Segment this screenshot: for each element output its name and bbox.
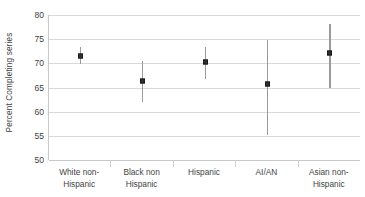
gridline-60 [49,112,360,113]
y-axis-tick-labels: 80757065605550 [18,0,44,197]
error-bar-whisker [329,24,330,89]
category-separator [110,160,111,167]
data-point-marker [265,82,270,87]
data-point-marker [327,51,332,56]
x-axis-category-separators [48,160,360,167]
category-separator [235,160,236,167]
data-point-marker [78,54,83,59]
x-tick-label-line: Hispanic [294,179,364,191]
gridline-80 [49,15,360,16]
y-tick-label-55: 55 [18,132,44,141]
x-tick-label-line: Hispanic [44,179,114,191]
y-tick-label-70: 70 [18,59,44,68]
y-tick-label-75: 75 [18,35,44,44]
x-tick-label-line: Hispanic [169,167,239,179]
x-tick-label-1: Black nonHispanic [107,167,177,190]
x-tick-label-3: AI/AN [231,167,301,179]
error-bar-whisker [267,40,268,135]
category-separator [298,160,299,167]
data-point-marker [140,78,145,83]
y-tick-label-50: 50 [18,156,44,165]
x-tick-label-line: AI/AN [231,167,301,179]
error-bar-chart: Percent Completing series 80757065605550… [0,0,365,197]
gridline-55 [49,136,360,137]
gridline-75 [49,39,360,40]
y-tick-label-65: 65 [18,83,44,92]
x-tick-label-2: Hispanic [169,167,239,179]
x-tick-label-line: Asian non- [294,167,364,179]
x-axis-tick-labels: White non-HispanicBlack nonHispanicHispa… [48,167,360,197]
y-axis-title-text: Percent Completing series [6,33,15,133]
data-point-marker [203,60,208,65]
gridline-65 [49,88,360,89]
x-tick-label-line: Black non [107,167,177,179]
x-tick-label-line: Hispanic [107,179,177,191]
plot-area [48,15,360,160]
x-tick-label-0: White non-Hispanic [44,167,114,190]
category-separator [173,160,174,167]
y-tick-label-60: 60 [18,107,44,116]
x-tick-label-4: Asian non-Hispanic [294,167,364,190]
x-tick-label-line: White non- [44,167,114,179]
y-axis-title: Percent Completing series [0,0,20,165]
y-tick-label-80: 80 [18,11,44,20]
